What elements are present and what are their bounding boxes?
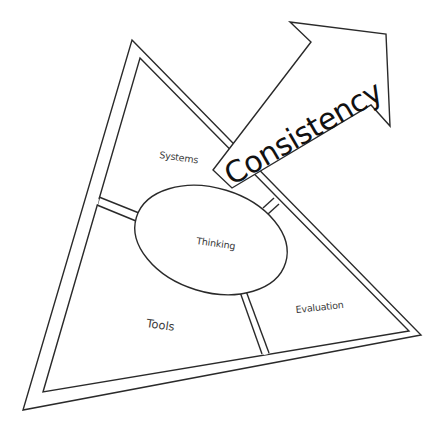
bottom-divider: [240, 291, 269, 354]
systems-label: Systems: [159, 149, 199, 165]
left-divider: [97, 197, 139, 221]
evaluation-label: Evaluation: [295, 299, 344, 315]
tools-label: Tools: [145, 316, 176, 334]
consistency-triangle-diagram: Systems Thinking Tools Evaluation Consis…: [0, 0, 447, 427]
